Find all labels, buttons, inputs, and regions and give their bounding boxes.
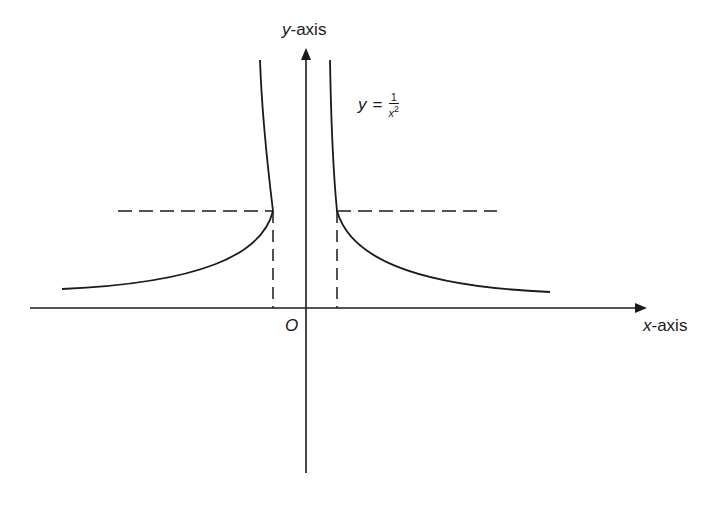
equation-fraction: 1 x2 <box>388 92 399 119</box>
x-axis-var: x <box>643 316 652 335</box>
curve-left-branch <box>62 60 273 289</box>
equation-equals: = <box>373 95 383 115</box>
y-axis-var: y <box>282 20 291 39</box>
equation-label: y = 1 x2 <box>358 92 399 119</box>
y-axis-suffix: -axis <box>291 20 327 39</box>
x-axis-label: x-axis <box>643 316 687 336</box>
x-axis-suffix: -axis <box>652 316 688 335</box>
equation-denominator-exp: 2 <box>394 104 399 114</box>
equation-lhs: y <box>358 95 367 115</box>
equation-numerator: 1 <box>389 92 399 104</box>
origin-label: O <box>285 316 298 336</box>
y-axis-label: y-axis <box>282 20 326 40</box>
graph-canvas <box>0 0 728 505</box>
equation-denominator: x2 <box>388 104 399 119</box>
